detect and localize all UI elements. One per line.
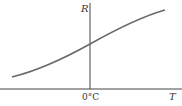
y-axis-label: R — [81, 4, 89, 14]
origin-tick-label: 0°C — [82, 93, 99, 102]
resistance-temperature-diagram: R T 0°C — [0, 0, 182, 106]
x-axis-label: T — [169, 92, 176, 102]
diagram-svg — [0, 0, 182, 106]
r-vs-t-curve — [12, 10, 165, 77]
